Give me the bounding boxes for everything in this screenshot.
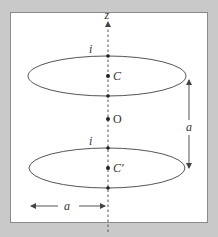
center-c-point <box>106 74 110 78</box>
top-loop-current-label: i <box>89 42 92 56</box>
center-c-prime-point <box>106 166 110 170</box>
helmholtz-coil-diagram: z i C O i C′ a a <box>0 0 218 237</box>
z-axis-label: z <box>104 8 110 22</box>
origin-label: O <box>113 112 122 126</box>
bottom-loop-back-point <box>106 186 110 190</box>
top-loop-back-point <box>106 94 110 98</box>
top-loop-front-point <box>106 54 110 58</box>
radius-label: a <box>64 199 70 213</box>
bottom-loop-front-point <box>106 146 110 150</box>
bottom-loop-current-label: i <box>89 134 92 148</box>
center-c-label: C <box>113 69 122 83</box>
origin-point <box>106 117 110 121</box>
separation-label: a <box>186 120 192 134</box>
center-c-prime-label: C′ <box>113 161 124 175</box>
